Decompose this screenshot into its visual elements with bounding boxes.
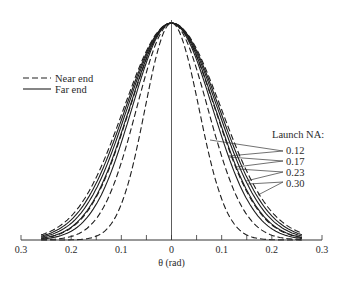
x-tick-label: 0.1 — [115, 244, 128, 255]
launch-na-annotation: Launch NA: 0.12 0.17 0.23 0.30 — [210, 129, 324, 195]
x-tick-label: 0.2 — [65, 244, 78, 255]
na-label-0-23: 0.23 — [286, 167, 304, 178]
legend: Near end Far end — [23, 73, 94, 95]
na-label-0-12: 0.12 — [286, 145, 304, 156]
x-tick-label: 0.2 — [266, 244, 279, 255]
x-axis-label: θ (rad) — [158, 257, 185, 269]
x-tick-label: 0 — [169, 244, 174, 255]
x-axis-ticks — [21, 235, 322, 240]
na-label-0-30: 0.30 — [286, 178, 304, 189]
x-axis-tick-labels: 0.30.20.100.10.20.3 — [15, 244, 329, 255]
x-tick-label: 0.3 — [15, 244, 28, 255]
x-tick-label: 0.3 — [316, 244, 329, 255]
legend-far-end-label: Far end — [55, 84, 88, 95]
na-label-0-17: 0.17 — [286, 156, 304, 167]
launch-na-title: Launch NA: — [272, 129, 324, 140]
far-field-angular-distribution-chart: 0.30.20.100.10.20.3 θ (rad) Near end Far… — [0, 0, 347, 283]
x-tick-label: 0.1 — [215, 244, 228, 255]
na-leader-lines — [210, 140, 283, 195]
legend-near-end-label: Near end — [55, 73, 94, 84]
